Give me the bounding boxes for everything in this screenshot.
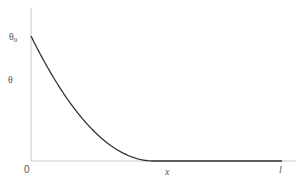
theta0-tick-label: θ0 [9,32,17,44]
theta-curve [31,36,282,161]
origin-tick-label: 0 [24,165,30,175]
plot-area [0,0,305,189]
chart-container: θ0 θ 0 x l [0,0,305,189]
x-end-tick-label: l [279,165,282,175]
y-axis-label: θ [8,75,13,85]
x-axis-label: x [165,167,169,177]
